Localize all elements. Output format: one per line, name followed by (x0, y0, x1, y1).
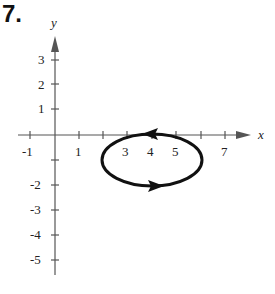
x-axis-arrow-icon (236, 131, 251, 139)
parametric-graph: x y -1 1 3 4 5 7 3 2 1 -2 -3 -4 -5 (0, 0, 275, 294)
y-axis-arrow-icon (51, 36, 59, 52)
x-tick-label: 4 (147, 144, 154, 159)
x-axis-label: x (257, 127, 264, 142)
x-tick-label: 3 (122, 144, 129, 159)
y-tick-label: -5 (30, 252, 41, 267)
y-tick-label: 2 (38, 77, 45, 92)
y-axis-label: y (49, 15, 57, 30)
x-tick-label: 5 (172, 144, 179, 159)
x-tick-label: -1 (22, 144, 33, 159)
y-tick-label: -2 (30, 177, 41, 192)
y-tick-label: 3 (38, 52, 45, 67)
y-tick-label: -3 (30, 202, 41, 217)
x-tick-label: 1 (75, 144, 82, 159)
x-tick-label: 7 (221, 144, 228, 159)
y-tick-label: 1 (38, 101, 45, 116)
ellipse-curve (102, 134, 202, 186)
y-tick-label: -4 (30, 227, 41, 242)
